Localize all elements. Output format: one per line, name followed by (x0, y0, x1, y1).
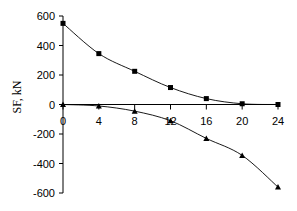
square-marker (132, 69, 137, 74)
x-tick-label: 16 (200, 115, 212, 127)
square-marker (240, 101, 245, 106)
y-tick-label: 400 (37, 40, 55, 52)
square-marker (276, 102, 281, 107)
shear-force-chart: 6004002000-200-400-60004812162024 SF, kN (0, 0, 297, 211)
x-tick-label: 20 (236, 115, 248, 127)
y-tick-label: 0 (49, 99, 55, 111)
y-tick-label: -200 (33, 128, 55, 140)
triangle-marker (203, 135, 209, 141)
square-marker (61, 21, 66, 26)
x-tick-label: 8 (132, 115, 138, 127)
y-tick-label: 600 (37, 10, 55, 22)
x-tick-label: 24 (272, 115, 284, 127)
y-tick-label: -600 (33, 187, 55, 199)
square-marker (168, 85, 173, 90)
series-1 (61, 21, 281, 107)
y-tick-label: 200 (37, 69, 55, 81)
square-marker (204, 96, 209, 101)
y-tick-label: -400 (33, 158, 55, 170)
series-line (63, 23, 278, 104)
x-tick-label: 0 (60, 115, 66, 127)
x-tick-label: 4 (96, 115, 102, 127)
triangle-marker (239, 152, 245, 158)
y-axis-label: SF, kN (10, 80, 24, 113)
square-marker (96, 51, 101, 56)
